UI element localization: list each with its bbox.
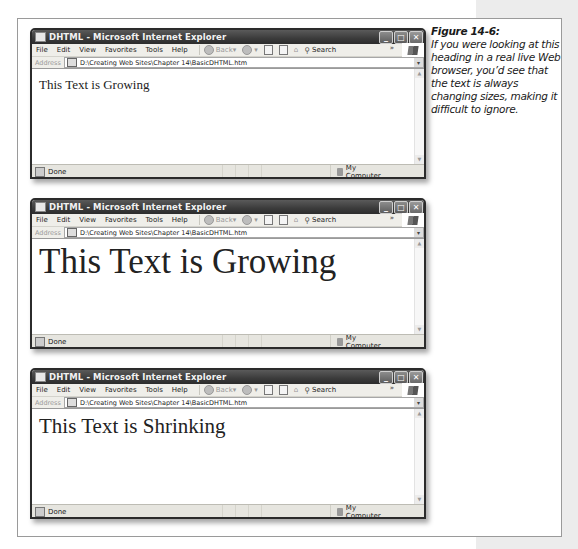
refresh-icon: [279, 385, 288, 395]
page-content: This Text is Shrinking ▲ ▼: [32, 409, 424, 504]
page-content: This Text is Growing ▲ ▼: [32, 69, 424, 164]
back-arrow-icon: [204, 215, 214, 225]
toolbar-overflow-chevron[interactable]: »: [390, 384, 394, 392]
forward-arrow-icon: [242, 45, 252, 55]
home-button[interactable]: ⌂: [294, 216, 298, 224]
scroll-up-arrow-icon[interactable]: ▲: [415, 409, 424, 418]
menu-help[interactable]: Help: [172, 386, 188, 394]
address-bar: Address D:\Creating Web Sites\Chapter 14…: [32, 227, 424, 239]
menu-tools[interactable]: Tools: [146, 386, 163, 394]
status-bar: Done My Computer: [32, 334, 424, 348]
page-icon: [67, 228, 77, 237]
address-dropdown-icon[interactable]: ▾: [414, 58, 423, 67]
security-zone: My Computer: [330, 505, 392, 518]
menu-favorites[interactable]: Favorites: [105, 216, 137, 224]
ie-window-1: DHTML - Microsoft Internet Explorer _ □ …: [30, 28, 426, 179]
forward-arrow-icon: [242, 385, 252, 395]
minimize-button[interactable]: _: [379, 201, 393, 214]
title-bar: DHTML - Microsoft Internet Explorer _ □ …: [32, 200, 424, 214]
menu-view[interactable]: View: [79, 386, 96, 394]
back-button[interactable]: Back ▾: [204, 45, 237, 55]
refresh-button[interactable]: [279, 385, 288, 395]
menu-view[interactable]: View: [79, 216, 96, 224]
menu-bar: File Edit View Favorites Tools Help Back…: [32, 384, 424, 397]
back-button[interactable]: Back ▾: [204, 385, 237, 395]
address-input[interactable]: D:\Creating Web Sites\Chapter 14\BasicDH…: [64, 57, 424, 68]
menu-tools[interactable]: Tools: [146, 216, 163, 224]
address-dropdown-icon[interactable]: ▾: [414, 228, 423, 237]
toolbar-separator: [199, 215, 200, 225]
ie-window-3: DHTML - Microsoft Internet Explorer _ □ …: [30, 368, 426, 519]
menu-edit[interactable]: Edit: [57, 46, 71, 54]
zone-label: My Computer: [346, 504, 392, 520]
menu-file[interactable]: File: [36, 386, 48, 394]
forward-button[interactable]: ▾: [242, 215, 258, 225]
forward-button[interactable]: ▾: [242, 385, 258, 395]
ie-app-icon: [35, 372, 46, 382]
menu-tools[interactable]: Tools: [146, 46, 163, 54]
menu-edit[interactable]: Edit: [57, 386, 71, 394]
address-dropdown-icon[interactable]: ▾: [414, 398, 423, 407]
home-icon: ⌂: [294, 386, 298, 394]
address-label: Address: [35, 229, 61, 237]
status-panes: [222, 335, 274, 348]
figure-label: Figure 14-6:: [431, 25, 561, 38]
stop-button[interactable]: [264, 385, 273, 395]
home-button[interactable]: ⌂: [294, 46, 298, 54]
refresh-button[interactable]: [279, 215, 288, 225]
menu-bar: File Edit View Favorites Tools Help Back…: [32, 44, 424, 57]
menu-file[interactable]: File: [36, 46, 48, 54]
status-text: Done: [48, 168, 66, 176]
back-button[interactable]: Back ▾: [204, 215, 237, 225]
vertical-scrollbar[interactable]: ▲ ▼: [414, 69, 424, 164]
toolbar-overflow-chevron[interactable]: »: [390, 44, 394, 52]
home-button[interactable]: ⌂: [294, 386, 298, 394]
menu-help[interactable]: Help: [172, 216, 188, 224]
windows-logo-icon: [402, 383, 424, 397]
toolbar-overflow-chevron[interactable]: »: [390, 214, 394, 222]
address-input[interactable]: D:\Creating Web Sites\Chapter 14\BasicDH…: [64, 397, 424, 408]
search-button[interactable]: ⚲Search: [304, 216, 336, 225]
stop-button[interactable]: [264, 215, 273, 225]
figure-caption: Figure 14-6: If you were looking at this…: [431, 25, 561, 116]
page-heading: This Text is Growing: [39, 77, 149, 93]
stop-button[interactable]: [264, 45, 273, 55]
status-text: Done: [48, 508, 66, 516]
minimize-button[interactable]: _: [379, 371, 393, 384]
minimize-button[interactable]: _: [379, 31, 393, 44]
search-icon: ⚲: [304, 386, 310, 395]
search-icon: ⚲: [304, 216, 310, 225]
security-zone: My Computer: [330, 165, 392, 178]
menu-view[interactable]: View: [79, 46, 96, 54]
scroll-down-arrow-icon[interactable]: ▼: [415, 495, 424, 504]
menu-favorites[interactable]: Favorites: [105, 46, 137, 54]
window-title: DHTML - Microsoft Internet Explorer: [49, 372, 226, 382]
search-button[interactable]: ⚲Search: [304, 46, 336, 55]
stop-icon: [264, 45, 273, 55]
menu-favorites[interactable]: Favorites: [105, 386, 137, 394]
ie-window-2: DHTML - Microsoft Internet Explorer _ □ …: [30, 198, 426, 349]
menu-help[interactable]: Help: [172, 46, 188, 54]
title-bar: DHTML - Microsoft Internet Explorer _ □ …: [32, 370, 424, 384]
toolbar-separator: [199, 385, 200, 395]
scroll-up-arrow-icon[interactable]: ▲: [415, 69, 424, 78]
forward-button[interactable]: ▾: [242, 45, 258, 55]
vertical-scrollbar[interactable]: ▲ ▼: [414, 409, 424, 504]
vertical-scrollbar[interactable]: ▲ ▼: [414, 239, 424, 334]
windows-logo-icon: [402, 43, 424, 57]
scroll-down-arrow-icon[interactable]: ▼: [415, 325, 424, 334]
status-panes: [222, 165, 274, 178]
address-input[interactable]: D:\Creating Web Sites\Chapter 14\BasicDH…: [64, 227, 424, 238]
address-value: D:\Creating Web Sites\Chapter 14\BasicDH…: [80, 229, 247, 237]
page-heading: This Text is Growing: [39, 242, 336, 282]
refresh-icon: [279, 215, 288, 225]
search-button[interactable]: ⚲Search: [304, 386, 336, 395]
page-done-icon: [35, 337, 45, 347]
menu-edit[interactable]: Edit: [57, 216, 71, 224]
scroll-up-arrow-icon[interactable]: ▲: [415, 239, 424, 248]
menu-file[interactable]: File: [36, 216, 48, 224]
refresh-button[interactable]: [279, 45, 288, 55]
status-text: Done: [48, 338, 66, 346]
scroll-down-arrow-icon[interactable]: ▼: [415, 155, 424, 164]
address-bar: Address D:\Creating Web Sites\Chapter 14…: [32, 57, 424, 69]
